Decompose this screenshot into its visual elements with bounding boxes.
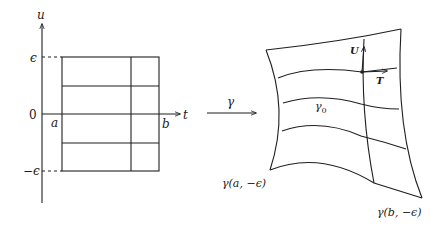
parameter-domain: u t ϵ 0 −ϵ a b (23, 8, 188, 203)
map-arrow: γ (207, 95, 256, 113)
variation-diagram: u t ϵ 0 −ϵ a b γ U T γ0 γ(a, −ϵ) γ(b, (0, 0, 445, 227)
surface-bottom-edge (270, 162, 422, 198)
corner-bottom-right-label: γ(b, −ϵ) (377, 206, 422, 219)
surface-top-edge (266, 29, 401, 50)
variation-surface: U T γ0 γ(a, −ϵ) γ(b, −ϵ) (222, 29, 422, 219)
b-label: b (162, 117, 170, 131)
surface-left-edge (266, 50, 279, 170)
a-label: a (51, 116, 58, 130)
gamma0-label: γ0 (315, 100, 327, 115)
vector-u-label: U (350, 45, 360, 56)
corner-bottom-left-label: γ(a, −ϵ) (222, 177, 266, 190)
t-axis-label: t (183, 108, 188, 122)
zero-tick-label: 0 (29, 108, 37, 122)
curve-gamma0 (283, 98, 399, 109)
curve-t-fixed (363, 39, 374, 183)
epsilon-tick-label: ϵ (30, 51, 37, 65)
vector-t-label: T (376, 75, 385, 86)
u-axis-label: u (37, 8, 45, 22)
surface-right-edge (400, 29, 422, 198)
curve-u-lower (282, 126, 406, 149)
map-label: γ (227, 95, 235, 109)
neg-epsilon-tick-label: −ϵ (23, 164, 40, 178)
